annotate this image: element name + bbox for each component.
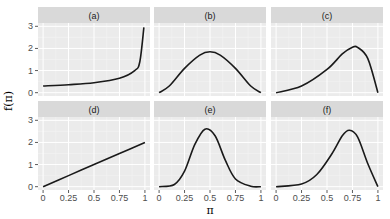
y-tick-label: 0 — [28, 88, 33, 98]
y-tick-label: 1 — [28, 160, 33, 170]
x-tick-label: 1 — [142, 193, 147, 203]
facet-label: (a) — [89, 11, 100, 21]
x-axes: 00.250.50.75100.250.50.75100.250.50.751 — [41, 190, 381, 203]
x-tick-label: 1 — [375, 193, 380, 203]
facet-label: (b) — [205, 11, 216, 21]
facet-panel-a: (a) — [38, 7, 150, 96]
x-tick-label: 0 — [41, 193, 46, 203]
y-tick-label: 1 — [28, 66, 33, 76]
x-tick-label: 0.5 — [88, 193, 101, 203]
x-axis-title: π — [206, 204, 213, 217]
y-tick-label: 3 — [28, 21, 33, 31]
facet-label: (d) — [89, 105, 100, 115]
y-axes: 01230123 — [28, 21, 38, 191]
x-tick-label: 0 — [157, 193, 162, 203]
facet-panel-d: (d) — [38, 101, 150, 190]
x-tick-label: 0 — [274, 193, 279, 203]
x-tick-label: 0.25 — [60, 193, 78, 203]
x-tick-label: 0.75 — [344, 193, 362, 203]
y-tick-label: 2 — [28, 137, 33, 147]
panels-group: (a)(b)(c)(d)(e)(f) — [38, 7, 383, 190]
facet-label: (e) — [205, 105, 216, 115]
x-tick-label: 0.25 — [293, 193, 311, 203]
x-tick-label: 0.5 — [321, 193, 334, 203]
x-tick-label: 1 — [258, 193, 263, 203]
y-axis-title: f(π) — [2, 91, 15, 111]
facet-label: (c) — [322, 11, 333, 21]
facet-label: (f) — [323, 105, 332, 115]
x-tick-label: 0.75 — [111, 193, 129, 203]
y-tick-label: 2 — [28, 43, 33, 53]
facet-panel-c: (c) — [271, 7, 383, 96]
facet-panel-b: (b) — [154, 7, 266, 96]
faceted-line-chart: (a)(b)(c)(d)(e)(f) 01230123 00.250.50.75… — [0, 0, 390, 219]
facet-panel-e: (e) — [154, 101, 266, 190]
x-tick-label: 0.5 — [204, 193, 217, 203]
x-tick-label: 0.25 — [176, 193, 194, 203]
y-tick-label: 0 — [28, 182, 33, 192]
x-tick-label: 0.75 — [227, 193, 245, 203]
facet-panel-f: (f) — [271, 101, 383, 190]
y-tick-label: 3 — [28, 115, 33, 125]
